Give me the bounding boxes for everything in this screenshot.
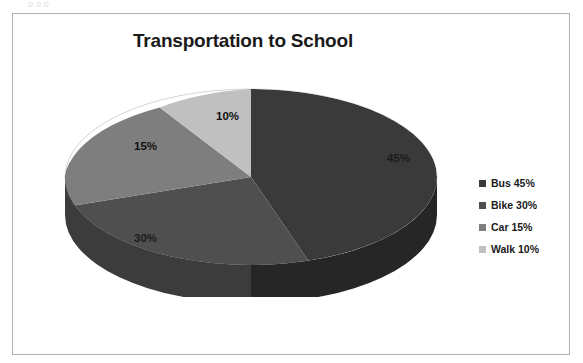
legend-label: Walk 10% [491, 243, 539, 255]
pie-label-car: 15% [134, 140, 157, 152]
legend-item-bus[interactable]: Bus 45% [479, 172, 575, 194]
legend-item-bike[interactable]: Bike 30% [479, 194, 575, 216]
legend-swatch-icon [479, 202, 486, 209]
legend-label: Car 15% [491, 221, 532, 233]
legend-item-car[interactable]: Car 15% [479, 216, 575, 238]
chart-frame: Transportation to School [12, 13, 570, 355]
pie-chart-svg [61, 82, 441, 297]
legend-label: Bike 30% [491, 199, 537, 211]
chart-title: Transportation to School [13, 30, 473, 52]
legend-swatch-icon [479, 246, 486, 253]
pie-label-bike: 30% [134, 232, 157, 244]
pie-label-walk: 10% [216, 110, 239, 122]
scan-artifact-text: p g p [28, 0, 178, 7]
pie-chart-plot-area: 45% 30% 15% 10% [61, 82, 441, 297]
chart-legend: Bus 45% Bike 30% Car 15% Walk 10% [479, 172, 575, 260]
pie-label-bus: 45% [387, 152, 410, 164]
legend-label: Bus 45% [491, 177, 535, 189]
legend-swatch-icon [479, 224, 486, 231]
legend-item-walk[interactable]: Walk 10% [479, 238, 575, 260]
legend-swatch-icon [479, 180, 486, 187]
